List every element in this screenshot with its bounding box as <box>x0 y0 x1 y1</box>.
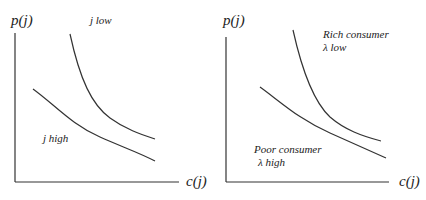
right-y-axis-label: p(j) <box>223 13 245 28</box>
right-curve-label-rich-line1: Rich consumer <box>323 29 389 40</box>
right-x-axis-label: c(j) <box>399 174 420 189</box>
left-curve-j-low <box>70 34 155 139</box>
left-x-axis-label: c(j) <box>186 174 207 189</box>
left-y-axis-label: p(j) <box>11 13 33 28</box>
left-panel <box>15 33 179 182</box>
right-panel <box>226 30 389 182</box>
left-curve-label-j-low: j low <box>90 15 112 26</box>
right-curve-label-poor-line2: λ high <box>258 157 285 168</box>
right-curve-label-poor-line1: Poor consumer <box>254 144 322 155</box>
right-curve-label-rich-line2: λ low <box>323 42 346 53</box>
left-curve-label-j-high: j high <box>43 133 68 144</box>
